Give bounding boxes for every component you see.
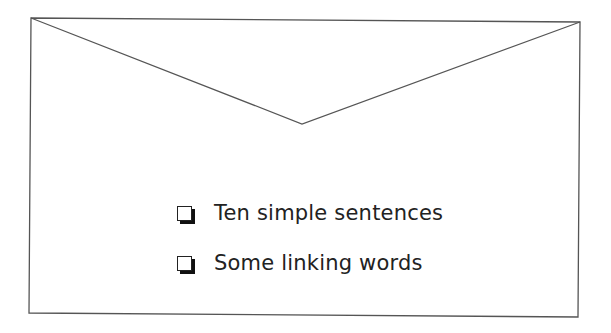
checkbox-icon [177,256,192,271]
envelope-icon [0,0,611,333]
checklist-item-some-linking-words: Some linking words [177,251,423,275]
checkbox-icon [177,206,192,221]
checklist-item-ten-simple-sentences: Ten simple sentences [177,201,443,225]
envelope-illustration: Ten simple sentences Some linking words [0,0,611,333]
checklist-item-label: Ten simple sentences [214,201,443,225]
checklist-item-label: Some linking words [214,251,423,275]
